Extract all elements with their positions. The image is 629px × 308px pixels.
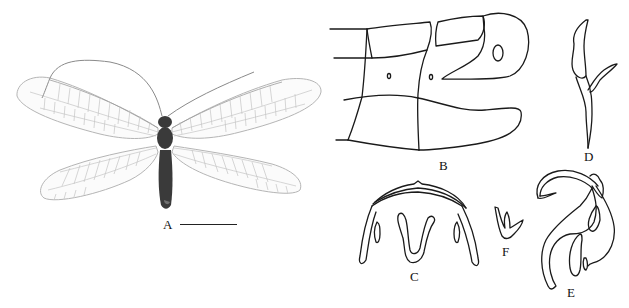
panel-label-e: E: [567, 286, 575, 299]
panel-e-drawing: E: [0, 0, 629, 308]
curved-genital-structure-drawing: [0, 0, 629, 308]
